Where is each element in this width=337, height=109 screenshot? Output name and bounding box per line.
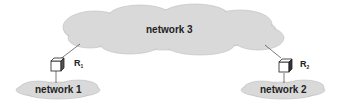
router-r1-icon [51,58,64,71]
network-diagram: network 3 network 1 network 2 R1 R2 [0,0,337,109]
router-r2-label: R2 [300,59,309,70]
router-r2-icon [279,59,292,72]
router-r1-label: R1 [74,58,83,69]
network-3-label: network 3 [146,24,193,35]
network-1-label: network 1 [35,84,82,95]
network-2-label: network 2 [260,84,307,95]
